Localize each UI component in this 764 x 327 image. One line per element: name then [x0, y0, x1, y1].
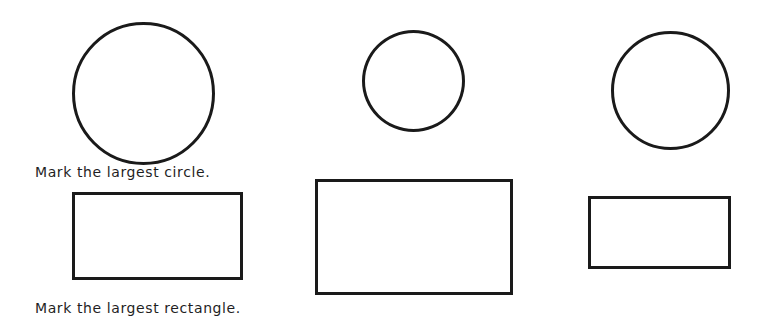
rectangle-1[interactable] — [72, 192, 243, 280]
rectangle-2[interactable] — [315, 179, 513, 295]
circle-instruction: Mark the largest circle. — [35, 164, 210, 180]
rectangle-3[interactable] — [588, 196, 731, 269]
circle-3[interactable] — [611, 31, 730, 150]
circle-2[interactable] — [362, 30, 465, 132]
rectangle-instruction: Mark the largest rectangle. — [35, 300, 241, 316]
circle-1[interactable] — [72, 22, 215, 165]
